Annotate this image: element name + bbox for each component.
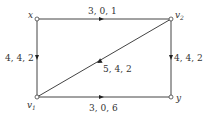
node-x [35, 17, 39, 21]
node-v1 [35, 95, 39, 99]
flow-network-diagram: x v2 v1 y 3, 0, 1 4, 4, 2 4, 4, 2 5, 4, … [0, 0, 207, 127]
arrow-x-v1-icon [35, 55, 39, 60]
node-y [169, 95, 173, 99]
node-label-v1: v1 [27, 100, 36, 111]
arrow-v2-y-icon [169, 55, 173, 60]
edge-v2-v1 [37, 19, 171, 97]
arrow-x-v2-icon [99, 17, 104, 21]
node-label-v2: v2 [175, 10, 184, 21]
arrow-v1-y-icon [99, 95, 104, 99]
edge-label-v2-y: 4, 4, 2 [174, 53, 203, 63]
node-v2 [169, 17, 173, 21]
edge-label-x-v2: 3, 0, 1 [88, 6, 117, 16]
edge-label-v1-y: 3, 0, 6 [89, 103, 118, 113]
edge-label-x-v1: 4, 4, 2 [5, 53, 34, 63]
node-label-x: x [28, 10, 33, 20]
node-label-y: y [175, 93, 182, 103]
edge-label-v2-v1: 5, 4, 2 [103, 64, 132, 74]
